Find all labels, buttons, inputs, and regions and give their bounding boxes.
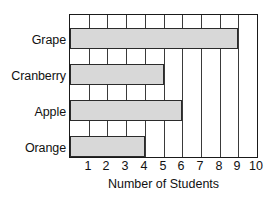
x-axis-title: Number of Students bbox=[69, 177, 258, 192]
category-label-grape: Grape bbox=[0, 34, 66, 47]
plot-area bbox=[69, 14, 258, 158]
bar-apple bbox=[70, 100, 182, 121]
bar-grape bbox=[70, 28, 238, 49]
x-axis-ticks: 1 2 3 4 5 6 7 8 9 10 bbox=[69, 159, 258, 175]
category-axis-labels: Grape Cranberry Apple Orange bbox=[0, 14, 66, 158]
x-tick-label-10: 10 bbox=[243, 159, 269, 173]
category-label-apple: Apple bbox=[0, 106, 66, 119]
bar-orange bbox=[70, 136, 145, 157]
bar-cranberry bbox=[70, 64, 164, 85]
category-label-cranberry: Cranberry bbox=[0, 70, 66, 83]
category-label-orange: Orange bbox=[0, 142, 66, 155]
bar-chart: Grape Cranberry Apple Orange 1 2 3 4 5 6… bbox=[0, 0, 269, 202]
